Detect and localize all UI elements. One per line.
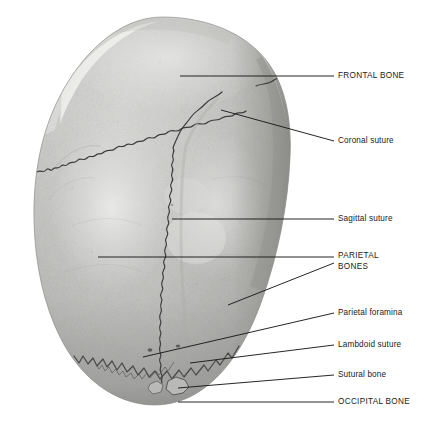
label-lambdoid-suture: Lambdoid suture <box>338 340 401 351</box>
label-frontal-bone: FRONTAL BONE <box>338 71 404 82</box>
label-sagittal-suture: Sagittal suture <box>338 214 393 225</box>
parietal-foramen-left <box>148 348 153 351</box>
label-parietal-foramina: Parietal foramina <box>338 308 402 319</box>
skull-figure <box>0 0 439 421</box>
label-sutural-bone: Sutural bone <box>338 370 386 381</box>
label-coronal-suture: Coronal suture <box>338 136 394 147</box>
label-occipital-bone: OCCIPITAL BONE <box>338 397 410 408</box>
parietal-foramen-right <box>176 344 180 347</box>
left-parietal-eminence <box>50 122 174 294</box>
cranium-illustration <box>20 10 310 420</box>
label-parietal-bones: PARIETAL BONES <box>338 251 379 272</box>
